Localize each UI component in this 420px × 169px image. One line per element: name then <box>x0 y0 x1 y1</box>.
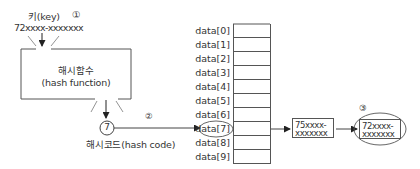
array-cell <box>233 52 271 66</box>
array-cell <box>233 66 271 80</box>
chain-node-line2: xxxxxxx <box>295 129 331 137</box>
step-1-marker: ① <box>72 9 80 20</box>
step-2-marker: ② <box>145 111 152 121</box>
array-cell <box>233 108 271 122</box>
array-label: data[9] <box>195 150 230 164</box>
chain-node: 75xxxx- xxxxxxx <box>292 118 334 138</box>
chain-node-target: 72xxxx- xxxxxxx <box>359 119 401 139</box>
hash-code-label: 해시코드(hash code) <box>86 137 175 151</box>
array-label: data[0] <box>195 24 230 38</box>
array-label: data[3] <box>195 66 230 80</box>
array-label: data[6] <box>195 108 230 122</box>
array-cell-highlighted <box>233 122 271 136</box>
hash-code-value: 7 <box>100 122 114 132</box>
hash-function-label-ko: 해시함수 <box>21 63 131 77</box>
key-label: 키(key) <box>28 9 60 23</box>
array-cell <box>233 94 271 108</box>
array-cell <box>233 38 271 52</box>
array-label-highlighted: data[7] <box>195 122 230 136</box>
chain-node-line2: xxxxxxx <box>362 130 398 138</box>
array-label: data[4] <box>195 80 230 94</box>
array-cell <box>233 24 271 38</box>
array-cell <box>233 150 271 164</box>
array-cell <box>233 136 271 150</box>
array-cell <box>233 80 271 94</box>
key-value: 72xxxx-xxxxxxx <box>14 22 83 33</box>
array-label: data[5] <box>195 94 230 108</box>
array-label: data[1] <box>195 38 230 52</box>
array-label: data[2] <box>195 52 230 66</box>
hash-function-label-en: (hash function) <box>21 77 131 88</box>
array-label: data[8] <box>195 136 230 150</box>
step-3-marker: ③ <box>359 103 366 113</box>
